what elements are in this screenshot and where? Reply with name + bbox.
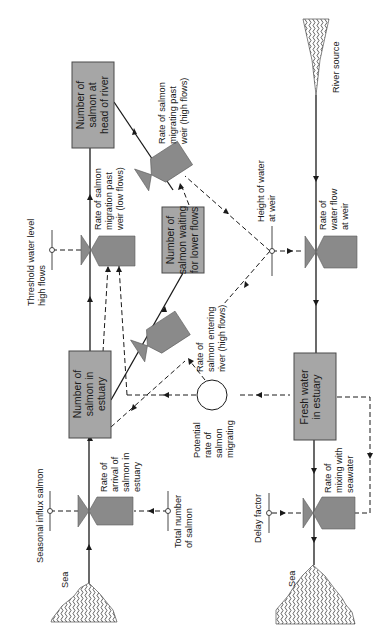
arrow-down — [367, 453, 373, 459]
arrow-diag — [223, 208, 229, 214]
arrow-right — [280, 510, 286, 516]
rate-waterflow-label-3: at weir — [340, 203, 350, 230]
valve-high-flow-migration — [135, 141, 193, 192]
aux-potential-label-2: rate of — [203, 432, 213, 458]
aux-potential-rate — [197, 380, 227, 410]
stock-head-label-2: salmon at — [87, 82, 98, 127]
arrow-up — [87, 296, 93, 302]
param-seasonal-influx — [48, 491, 53, 531]
param-threshold — [50, 230, 55, 270]
sea-right-label: Sea — [287, 570, 297, 587]
salmon-migration-diagram: Number of salmon at head of river Number… — [0, 0, 391, 641]
valve-water-flow — [305, 236, 357, 268]
param-total-label-1: Total number — [173, 495, 183, 548]
rate-arrival-label-2: arrival of — [110, 456, 120, 492]
param-delay-factor — [267, 493, 272, 533]
rate-waterflow-label-1: Rate of — [318, 200, 328, 230]
rate-highflow-label-1: Rate of salmon — [157, 82, 167, 144]
stock-waiting-label-1: Number of — [165, 216, 176, 265]
param-total-label-2: of salmon — [184, 508, 194, 548]
stock-freshwater-label-2: in estuary — [311, 374, 322, 420]
arrow-left — [256, 392, 262, 398]
stock-estuary-label-2: salmon in — [84, 372, 95, 417]
rate-highflow-label-2: migrating past — [168, 86, 178, 144]
rate-mixing-label-3: seawater — [345, 456, 355, 493]
arrow-diag — [244, 281, 249, 288]
rate-entering-label-3: river (high flows) — [217, 305, 227, 372]
info-height-to-entering — [223, 251, 270, 305]
arrow-up — [116, 266, 122, 272]
valve-mixing — [303, 497, 355, 529]
valve-entering-river — [131, 311, 191, 363]
rate-lowflow-label-3: weir (low flows) — [115, 167, 125, 231]
valve-low-flow-migration — [81, 235, 135, 266]
stock-estuary-label-3: estuary — [96, 376, 107, 411]
aux-potential-label-4: migrating — [225, 420, 235, 458]
rate-highflow-label-3: weir (high flows) — [179, 78, 189, 145]
info-waiting-to-highflow — [182, 187, 189, 205]
rate-arrival-label-1: Rate of — [99, 462, 109, 492]
rate-lowflow-label-1: Rate of salmon — [93, 168, 103, 230]
arrow-up — [105, 266, 111, 272]
aux-potential-label-3: salmon — [214, 428, 224, 458]
param-threshold-label-1: Threshold water level — [26, 219, 36, 306]
rate-entering-label-1: Rate of — [195, 342, 205, 372]
rate-arrival-label-4: estuary — [132, 461, 142, 492]
param-height-label-1: Height of water — [256, 160, 266, 222]
arrow-up — [86, 544, 92, 550]
arrow-right — [287, 248, 293, 254]
valve-arrival — [78, 495, 133, 527]
stock-freshwater-label-1: Fresh water — [299, 369, 310, 424]
info-potential-to-lowflow — [119, 266, 127, 395]
param-seasonal-label: Seasonal influx salmon — [35, 469, 45, 563]
arrow-left — [148, 508, 154, 514]
stock-head-label-3: head of river — [99, 76, 110, 134]
rate-entering-label-2: salmon entering — [206, 307, 216, 372]
rate-lowflow-label-2: migration past — [104, 172, 114, 230]
rate-mixing-label-2: mixing with — [334, 448, 344, 493]
river-source-shape — [303, 19, 329, 95]
param-total-number — [166, 491, 171, 531]
arrow-down — [313, 300, 319, 306]
arrow-down — [311, 537, 317, 543]
stock-waiting-label-2: salmon waiting — [177, 205, 188, 274]
sea-left-label: Sea — [60, 571, 70, 588]
param-height-label-2: at weir — [267, 195, 277, 222]
aux-potential-label-1: Potential — [192, 422, 202, 458]
arrow-diag — [188, 358, 194, 365]
arrow-left — [163, 392, 169, 398]
arrow-down — [311, 468, 317, 474]
param-threshold-label-2: high flows — [37, 265, 47, 306]
info-estuary-to-lowflow-1 — [103, 266, 108, 352]
arrow-down — [313, 176, 319, 182]
info-estuary-to-entering — [111, 361, 185, 427]
rate-arrival-label-3: salmon in — [121, 453, 131, 492]
rate-mixing-label-1: Rate of — [323, 463, 333, 493]
river-source-label: River source — [331, 41, 341, 93]
stock-waiting-label-3: for lower flows — [189, 207, 200, 273]
param-delay-label: Delay factor — [253, 494, 263, 543]
stock-estuary-label-1: Number of — [72, 370, 83, 419]
rate-waterflow-label-2: water flow — [329, 188, 339, 231]
stock-head-label-1: Number of — [75, 81, 86, 130]
param-height-of-water — [270, 226, 275, 276]
